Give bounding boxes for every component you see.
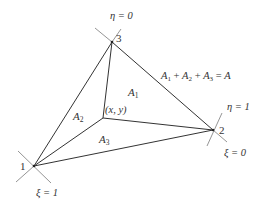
xi-0-label: ξ = 0: [224, 147, 247, 159]
area-a3-label: A3: [98, 133, 110, 147]
vertex-2-dot: [212, 129, 215, 132]
diagram-svg: 3 2 1 (x, y) A1 A2 A3 A1 + A2 + A3 = A η…: [0, 0, 260, 205]
triangle-diagram: 3 2 1 (x, y) A1 A2 A3 A1 + A2 + A3 = A η…: [0, 0, 260, 205]
vertex-3-dot: [111, 41, 114, 44]
eta-0-label: η = 0: [110, 10, 134, 21]
area-a2-label: A2: [72, 110, 84, 124]
tick-eta0-line-a: [95, 28, 112, 42]
vertex-2-label: 2: [219, 124, 225, 136]
line-p-2: [103, 118, 213, 130]
vertex-3-label: 3: [116, 32, 122, 44]
area-sum-equation: A1 + A2 + A3 = A: [160, 70, 231, 83]
area-a1-label: A1: [127, 86, 139, 100]
eta-1-label: η = 1: [227, 101, 250, 112]
edge-2-1: [34, 130, 213, 166]
edge-1-3: [34, 42, 112, 166]
xi-1-label: ξ = 1: [36, 187, 58, 199]
vertex-1-label: 1: [20, 160, 26, 172]
interior-point-label: (x, y): [105, 104, 127, 116]
vertex-1-dot: [33, 165, 36, 168]
